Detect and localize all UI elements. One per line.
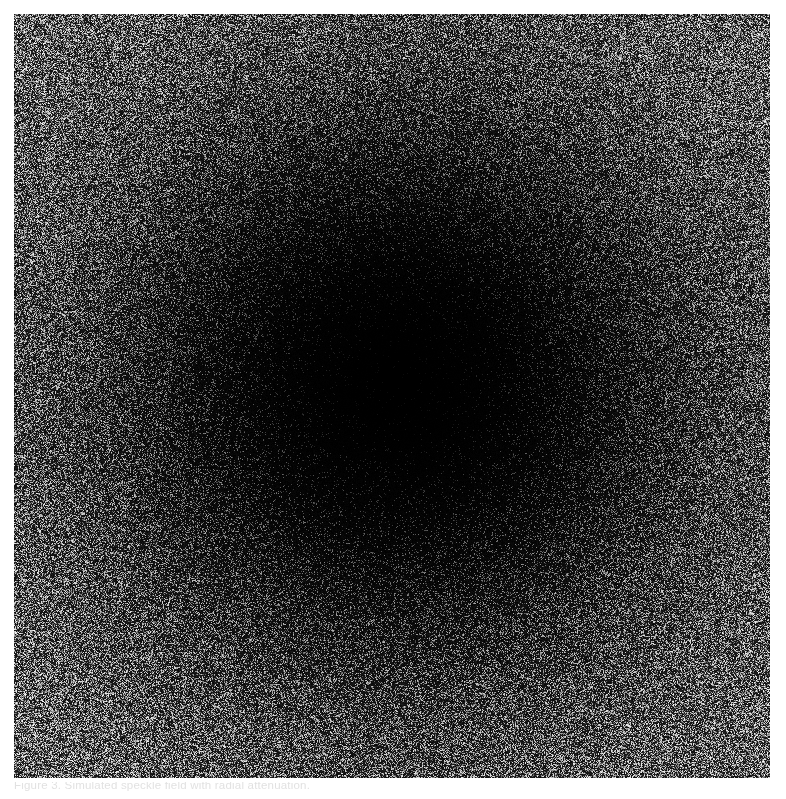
figure-caption-strip: Figure 3. Simulated speckle field with r… xyxy=(14,782,770,799)
noise-field-plate xyxy=(14,14,770,778)
figure-page: Figure 3. Simulated speckle field with r… xyxy=(0,0,786,799)
figure-caption-text: Figure 3. Simulated speckle field with r… xyxy=(14,782,310,792)
noise-field-canvas xyxy=(14,14,770,778)
